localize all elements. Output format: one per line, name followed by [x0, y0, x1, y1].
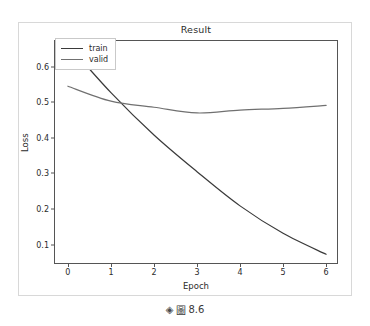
- legend-label-train: train: [89, 43, 108, 54]
- x-tick-mark: [111, 263, 112, 267]
- x-tick-mark: [283, 263, 284, 267]
- legend-label-valid: valid: [89, 54, 108, 65]
- legend-line-swatch-train: [61, 48, 83, 49]
- x-tick-mark: [326, 263, 327, 267]
- legend-line-swatch-valid: [61, 59, 83, 60]
- x-tick-mark: [68, 263, 69, 267]
- line-series-valid: [68, 86, 326, 113]
- figure-container: Result Loss 0.10.20.30.40.50.60123456 Ep…: [0, 0, 370, 326]
- diamond-icon: ◈: [166, 304, 174, 315]
- chart-legend: train valid: [55, 38, 116, 70]
- y-tick-mark: [51, 137, 55, 138]
- y-axis-label: Loss: [20, 133, 30, 152]
- x-tick-label: 1: [108, 268, 113, 277]
- x-tick-mark: [240, 263, 241, 267]
- line-series-train: [68, 45, 326, 255]
- x-tick-label: 3: [194, 268, 199, 277]
- y-tick-mark: [51, 209, 55, 210]
- legend-item-valid[interactable]: valid: [61, 54, 108, 65]
- caption-prefix-glyph: 圖: [176, 302, 186, 317]
- plot-area: 0.10.20.30.40.50.60123456: [54, 40, 338, 264]
- series-lines: [55, 41, 339, 265]
- chart-title: Result: [54, 24, 338, 35]
- figure-caption: ◈圖8.6: [0, 302, 370, 317]
- x-tick-label: 0: [65, 268, 70, 277]
- x-tick-mark: [197, 263, 198, 267]
- x-tick-label: 4: [237, 268, 242, 277]
- x-tick-label: 2: [151, 268, 156, 277]
- x-tick-label: 5: [281, 268, 286, 277]
- x-axis-label: Epoch: [54, 281, 338, 291]
- legend-item-train[interactable]: train: [61, 43, 108, 54]
- caption-number: 8.6: [188, 304, 204, 315]
- y-tick-mark: [51, 102, 55, 103]
- y-tick-mark: [51, 244, 55, 245]
- x-tick-mark: [154, 263, 155, 267]
- x-tick-label: 6: [324, 268, 329, 277]
- y-tick-mark: [51, 173, 55, 174]
